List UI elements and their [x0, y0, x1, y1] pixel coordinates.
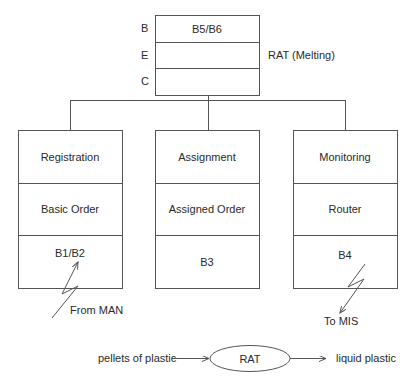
row-label-c: C: [141, 75, 149, 88]
module-3-row-1: Monitoring: [293, 130, 397, 183]
top-box-row-2: [155, 42, 259, 68]
outgoing-link-label: To MIS: [324, 315, 358, 328]
process-output-label: liquid plastic: [336, 352, 396, 365]
incoming-link-label: From MAN: [70, 304, 123, 317]
module-1-row-3: B1/B2: [18, 235, 122, 267]
top-box-row-1: B5/B6: [155, 15, 259, 42]
process-node-label: RAT: [210, 345, 290, 372]
row-label-b: B: [141, 22, 148, 35]
row-label-e: E: [141, 49, 148, 62]
module-2-row-2: Assigned Order: [155, 183, 259, 235]
module-3-row-3: B4: [293, 235, 397, 271]
module-2-row-1: Assignment: [155, 130, 259, 183]
module-3-row-2: Router: [293, 183, 397, 235]
process-input-label: pellets of plastic: [98, 352, 176, 365]
module-2-row-3: B3: [155, 235, 259, 288]
top-box-row-3: [155, 68, 259, 95]
module-1-row-2: Basic Order: [18, 183, 122, 235]
module-1-row-1: Registration: [18, 130, 122, 183]
top-box-side-label: RAT (Melting): [268, 49, 335, 62]
